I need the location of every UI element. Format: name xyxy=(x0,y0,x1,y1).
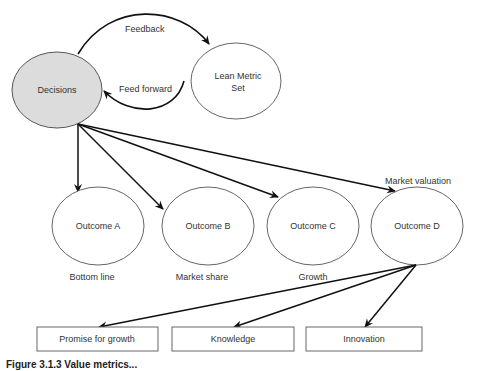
innovation-box-label: Innovation xyxy=(343,334,385,345)
figure-caption: Figure 3.1.3 Value metrics... xyxy=(6,359,137,371)
arrow-to-promise-box xyxy=(99,265,416,327)
knowledge-box-label: Knowledge xyxy=(211,334,256,345)
arrow-to-outcome-d xyxy=(78,124,395,191)
outcome-a-sublabel: Bottom line xyxy=(69,272,114,283)
lean-metric-label-line2: Set xyxy=(231,83,245,94)
outcome-a-label: Outcome A xyxy=(76,221,121,232)
feedback-label: Feedback xyxy=(125,24,165,35)
outcome-c-sublabel: Growth xyxy=(298,272,327,283)
lean-metric-label-line1: Lean Metric xyxy=(214,71,261,82)
outcome-b-label: Outcome B xyxy=(185,221,230,232)
promise-box-label: Promise for growth xyxy=(59,334,135,345)
outcome-b-sublabel: Market share xyxy=(176,272,229,283)
outcome-d-sublabel: Market valuation xyxy=(385,176,451,187)
feed-forward-label: Feed forward xyxy=(119,84,172,95)
outcome-c-label: Outcome C xyxy=(290,221,336,232)
decisions-label: Decisions xyxy=(37,85,76,96)
outcome-d-label: Outcome D xyxy=(394,221,440,232)
